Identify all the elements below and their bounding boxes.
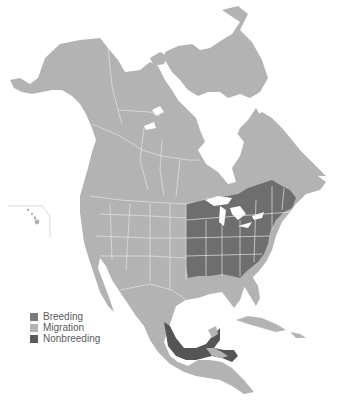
hawaii-inset-frame: [8, 206, 50, 238]
legend-item-nonbreeding: Nonbreeding: [30, 333, 100, 344]
nonbreeding-swatch-icon: [30, 335, 38, 343]
legend-label: Breeding: [43, 311, 83, 322]
legend-label: Nonbreeding: [43, 333, 100, 344]
map-legend: Breeding Migration Nonbreeding: [30, 311, 100, 344]
breeding-swatch-icon: [30, 313, 38, 321]
legend-item-migration: Migration: [30, 322, 100, 333]
legend-item-breeding: Breeding: [30, 311, 100, 322]
legend-label: Migration: [43, 322, 84, 333]
migration-swatch-icon: [30, 324, 38, 332]
